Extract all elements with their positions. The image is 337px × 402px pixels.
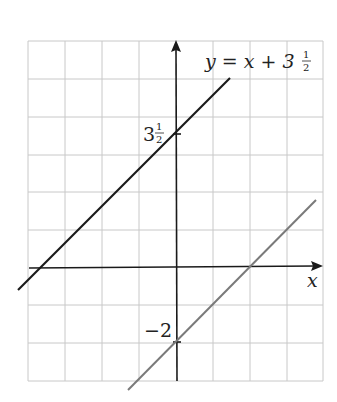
neg-two-label: −2 [144,319,172,341]
y-intercept-label: 3 1 2 [143,121,164,145]
svg-text:1: 1 [156,121,162,132]
axes [29,48,316,381]
x-axis [29,266,316,268]
line-y-equals-x-plus-3-5 [18,78,230,290]
y-axis [176,48,177,381]
svg-text:2: 2 [156,134,162,145]
line-y-equals-x-minus-2 [128,200,316,390]
graph: y = x + 3 1 2 3 1 2 −2 x [0,0,337,402]
svg-text:1: 1 [303,49,309,60]
svg-text:3: 3 [143,123,155,145]
x-axis-label: x [307,269,318,291]
svg-text:y = x + 3: y = x + 3 [204,50,295,72]
equation-label: y = x + 3 1 2 [204,49,311,73]
svg-text:2: 2 [303,62,309,73]
